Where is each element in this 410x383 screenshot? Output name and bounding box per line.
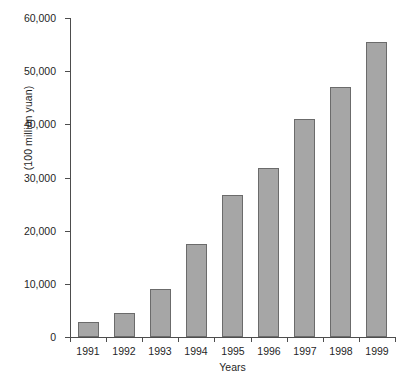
y-axis-tick-label: 60,000 <box>24 12 56 24</box>
x-axis-tick-label: 1997 <box>293 345 316 357</box>
bars-layer <box>70 18 395 338</box>
x-axis-tick-label: 1994 <box>184 345 207 357</box>
bar <box>366 42 387 337</box>
x-axis-tick <box>287 337 288 342</box>
x-axis-tick-label: 1995 <box>221 345 244 357</box>
bar <box>150 289 171 337</box>
x-axis-tick-label: 1999 <box>365 345 388 357</box>
bar <box>330 87 351 337</box>
y-axis-tick: 40,000 <box>65 124 70 125</box>
y-axis-tick: 10,000 <box>65 284 70 285</box>
y-axis-tick-label: 30,000 <box>24 172 56 184</box>
x-axis-tick <box>395 337 396 342</box>
x-axis-tick-label: 1991 <box>76 345 99 357</box>
x-axis-tick <box>359 337 360 342</box>
x-axis-tick-label: 1998 <box>329 345 352 357</box>
x-axis-tick-label: 1992 <box>112 345 135 357</box>
x-axis-tick <box>323 337 324 342</box>
bar <box>258 168 279 337</box>
x-axis-tick <box>178 337 179 342</box>
bar <box>186 244 207 337</box>
y-axis-tick-label: 20,000 <box>24 225 56 237</box>
x-axis-tick <box>106 337 107 342</box>
x-axis-tick <box>251 337 252 342</box>
x-axis-tick <box>214 337 215 342</box>
plot-area: 010,00020,00030,00040,00050,00060,000 19… <box>70 18 395 337</box>
bar <box>78 322 99 337</box>
y-axis-tick-label: 50,000 <box>24 65 56 77</box>
bar <box>114 313 135 337</box>
bar <box>294 119 315 337</box>
y-axis-tick: 30,000 <box>65 178 70 179</box>
x-axis-title: Years <box>70 361 395 373</box>
bar-chart: (100 million yuan) 010,00020,00030,00040… <box>0 0 410 383</box>
y-axis-tick-label: 0 <box>50 331 56 343</box>
x-axis-tick-label: 1993 <box>148 345 171 357</box>
bar <box>222 195 243 337</box>
x-axis-tick <box>70 337 71 342</box>
y-axis-tick: 60,000 <box>65 18 70 19</box>
y-axis-tick-label: 40,000 <box>24 118 56 130</box>
x-axis-tick-label: 1996 <box>257 345 280 357</box>
y-axis-tick-label: 10,000 <box>24 278 56 290</box>
y-axis-tick: 20,000 <box>65 231 70 232</box>
x-axis-tick <box>142 337 143 342</box>
y-axis-tick: 50,000 <box>65 71 70 72</box>
